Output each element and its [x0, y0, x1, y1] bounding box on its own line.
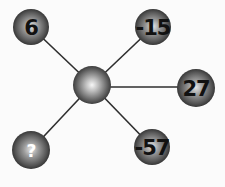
node-label-top-left: 6: [24, 16, 38, 40]
node-top-right: -15: [135, 9, 171, 45]
center-sphere: [73, 66, 111, 104]
node-label-unknown: ?: [27, 141, 36, 161]
node-top-left: 6: [13, 9, 49, 45]
node-label-top-right: -15: [136, 16, 171, 40]
node-label-right: 27: [182, 77, 209, 101]
edges: [31, 27, 196, 150]
star-diagram-svg: 6 -15 27 ? -57: [0, 0, 225, 187]
puzzle-diagram: 6 -15 27 ? -57: [0, 0, 225, 187]
node-right: 27: [177, 69, 215, 107]
node-bottom-right: -57: [134, 129, 170, 165]
node-label-bottom-right: -57: [135, 136, 170, 160]
node-bottom-left: ?: [12, 131, 50, 169]
